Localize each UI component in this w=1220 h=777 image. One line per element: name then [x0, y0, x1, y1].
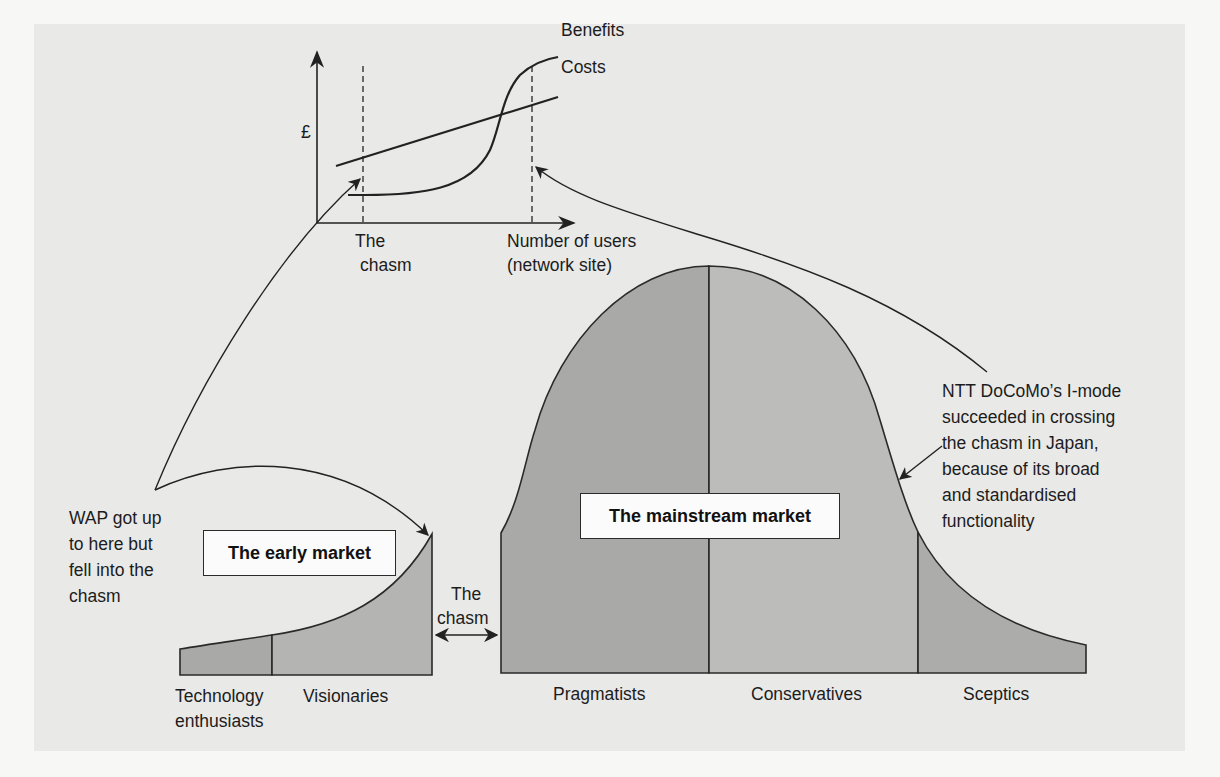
tech-enthusiasts-area [180, 635, 272, 675]
ntt-annotation-1: NTT DoCoMo’s I-mode [942, 381, 1121, 402]
y-axis-label: £ [301, 122, 311, 143]
chasm-gap-label-2: chasm [437, 608, 489, 629]
wap-annotation-2: to here but [69, 534, 153, 555]
pragmatists-label: Pragmatists [553, 684, 645, 705]
x-axis-label-2: (network site) [507, 255, 612, 276]
costs-label: Costs [561, 57, 606, 78]
costs-line [336, 97, 558, 166]
benefits-curve [348, 57, 558, 195]
tech-enthusiasts-label-2: enthusiasts [175, 711, 264, 732]
top-chasm-label-1: The [355, 231, 385, 252]
wap-arrow-to-early-market [155, 466, 428, 535]
ntt-annotation-5: and standardised [942, 485, 1076, 506]
ntt-annotation-4: because of its broad [942, 459, 1100, 480]
visionaries-label: Visionaries [303, 686, 388, 707]
wap-arrow-to-chart [155, 179, 360, 490]
early-market-box: The early market [203, 530, 396, 576]
conservatives-label: Conservatives [751, 684, 862, 705]
ntt-annotation-2: succeeded in crossing [942, 407, 1115, 428]
x-axis-label-1: Number of users [507, 231, 636, 252]
ntt-annotation-6: functionality [942, 511, 1034, 532]
conservatives-area [709, 266, 918, 673]
mainstream-market-box: The mainstream market [580, 493, 840, 539]
benefits-label: Benefits [561, 20, 624, 41]
wap-annotation-1: WAP got up [69, 508, 161, 529]
sceptics-label: Sceptics [963, 684, 1029, 705]
cost-benefit-chart [317, 52, 574, 223]
wap-annotation-3: fell into the [69, 560, 154, 581]
top-chasm-label-2: chasm [360, 255, 412, 276]
ntt-arrow-to-curve [900, 446, 942, 479]
pragmatists-area [501, 266, 709, 673]
wap-annotation-4: chasm [69, 586, 121, 607]
sceptics-area [918, 532, 1086, 673]
ntt-annotation-3: the chasm in Japan, [942, 433, 1099, 454]
tech-enthusiasts-label-1: Technology [175, 686, 264, 707]
chasm-gap-label-1: The [451, 584, 481, 605]
